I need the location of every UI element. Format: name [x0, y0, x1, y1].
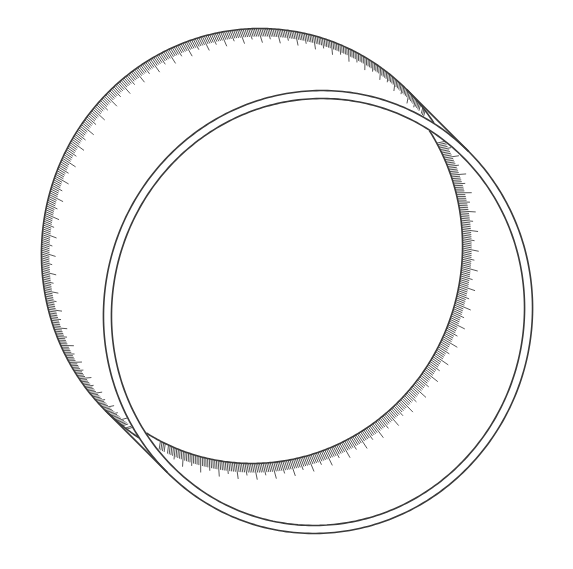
- back-outer-edge: [41, 29, 433, 438]
- inner-surface-hatching: [159, 141, 479, 479]
- outer-surface-hatching: [41, 29, 425, 430]
- front-outer-edge: [103, 91, 532, 534]
- ring-band-drawing: [0, 0, 573, 569]
- back-inner-edge: [146, 131, 462, 464]
